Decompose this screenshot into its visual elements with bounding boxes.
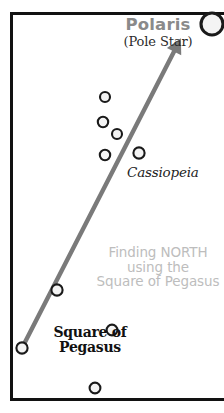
- caption-line-1: Finding NORTH: [88, 245, 224, 260]
- pegasus-star: [90, 383, 101, 394]
- cassiopeia-star: [98, 117, 108, 127]
- caption-line-2: using the: [88, 260, 224, 275]
- pegasus-star: [51, 284, 62, 295]
- cassiopeia-star: [112, 129, 122, 139]
- polaris-star-glyph: [201, 13, 223, 35]
- square-of-pegasus-label: Square of Pegasus: [38, 325, 142, 354]
- cassiopeia-star: [100, 150, 110, 160]
- cassiopeia-label: Cassiopeia: [127, 166, 199, 180]
- caption-text: Finding NORTH using the Square of Pegasu…: [88, 245, 224, 289]
- polaris-name: Polaris: [112, 17, 204, 34]
- diagram-canvas: Polaris (Pole Star) Cassiopeia Finding N…: [0, 0, 224, 413]
- polaris-subtitle: (Pole Star): [112, 35, 204, 48]
- caption-line-3: Square of Pegasus: [88, 274, 224, 289]
- pegasus-label-line-2: Pegasus: [38, 340, 142, 355]
- polaris-star: [201, 13, 223, 35]
- north-arrow: [22, 38, 181, 348]
- arrow-shaft: [22, 52, 174, 348]
- cassiopeia-star: [133, 147, 144, 158]
- pegasus-label-line-1: Square of: [38, 325, 142, 340]
- pegasus-star: [16, 342, 27, 353]
- cassiopeia-star: [100, 92, 110, 102]
- polaris-label: Polaris (Pole Star): [112, 17, 204, 48]
